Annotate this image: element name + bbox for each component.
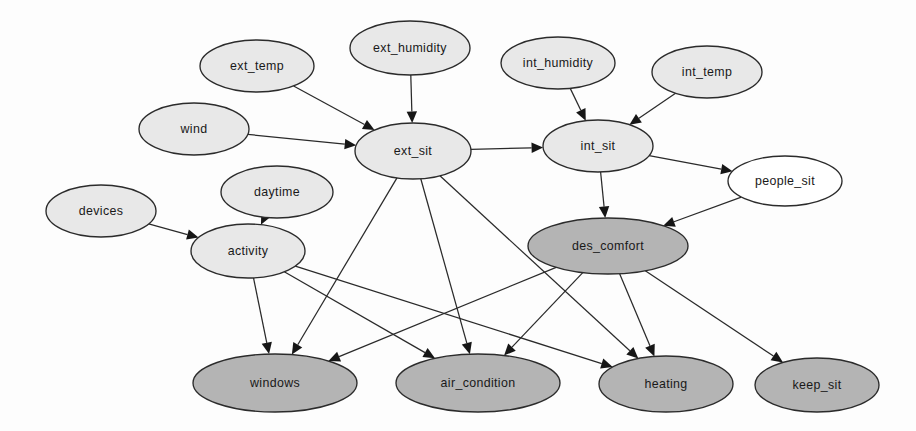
edge-activity-to-air-condition-arrowhead (422, 348, 435, 358)
node-label-ext-temp: ext_temp (230, 59, 284, 73)
edge-ext-sit-to-int-sit-line (471, 148, 532, 150)
edge-wind-to-ext-sit-arrowhead (344, 139, 356, 149)
edge-ext-sit-to-air-condition-arrowhead (462, 342, 472, 354)
edge-int-temp-to-int-sit (629, 93, 675, 124)
node-label-ext-sit: ext_sit (394, 144, 432, 158)
nodes-layer: ext_tempext_humidityint_humidityint_temp… (46, 21, 879, 412)
node-keep-sit[interactable]: keep_sit (755, 358, 879, 412)
edge-activity-to-windows (254, 278, 272, 354)
node-air-condition[interactable]: air_condition (396, 354, 560, 412)
edge-int-humidity-to-int-sit (570, 88, 586, 120)
node-wind[interactable]: wind (139, 103, 249, 155)
edge-ext-temp-to-ext-sit (294, 86, 375, 130)
node-devices[interactable]: devices (46, 185, 156, 237)
edge-ext-humidity-to-ext-sit-line (411, 75, 412, 112)
node-label-air-condition: air_condition (441, 376, 516, 390)
edge-int-sit-to-des-comfort (599, 172, 609, 218)
edge-des-comfort-to-heating (620, 274, 655, 357)
edge-wind-to-ext-sit-line (248, 134, 345, 144)
edge-activity-to-air-condition (284, 272, 435, 358)
node-label-devices: devices (79, 204, 123, 218)
node-label-people-sit: people_sit (755, 174, 815, 188)
edge-int-temp-to-int-sit-line (639, 93, 676, 118)
node-label-keep-sit: keep_sit (793, 378, 842, 392)
node-int-humidity[interactable]: int_humidity (501, 37, 615, 89)
edge-devices-to-activity-arrowhead (186, 230, 198, 240)
edge-des-comfort-to-windows (328, 267, 556, 361)
node-people-sit[interactable]: people_sit (728, 156, 842, 206)
edge-devices-to-activity-line (149, 224, 188, 235)
node-int-temp[interactable]: int_temp (652, 46, 762, 98)
node-label-int-temp: int_temp (682, 65, 732, 79)
edge-des-comfort-to-keep-sit (645, 271, 783, 363)
node-label-activity: activity (228, 244, 269, 258)
edge-des-comfort-to-windows-line (339, 267, 556, 356)
edge-ext-temp-to-ext-sit-line (294, 86, 365, 125)
edge-int-temp-to-int-sit-arrowhead (629, 114, 641, 125)
edge-activity-to-air-condition-line (284, 272, 425, 353)
edge-ext-sit-to-int-sit-arrowhead (531, 143, 543, 153)
edge-activity-to-heating-arrowhead (600, 359, 613, 369)
edge-wind-to-ext-sit (248, 134, 356, 149)
edge-devices-to-activity (149, 224, 199, 240)
edge-des-comfort-to-heating-line (620, 274, 650, 346)
graph-canvas: ext_tempext_humidityint_humidityint_temp… (0, 0, 916, 431)
edge-ext-humidity-to-ext-sit (407, 75, 417, 123)
edge-ext-sit-to-windows-arrowhead (292, 342, 302, 355)
node-ext-temp[interactable]: ext_temp (200, 40, 314, 92)
node-windows[interactable]: windows (193, 354, 357, 412)
edge-des-comfort-to-air-condition (504, 273, 583, 356)
node-heating[interactable]: heating (599, 356, 733, 412)
node-activity[interactable]: activity (191, 224, 305, 278)
edge-ext-sit-to-int-sit (471, 143, 543, 153)
node-label-windows: windows (249, 376, 300, 390)
edge-activity-to-windows-line (254, 278, 267, 343)
edge-ext-humidity-to-ext-sit-arrowhead (407, 111, 417, 123)
edge-ext-temp-to-ext-sit-arrowhead (362, 120, 375, 130)
edge-people-sit-to-des-comfort-arrowhead (663, 217, 676, 227)
node-ext-sit[interactable]: ext_sit (355, 123, 471, 179)
edge-ext-sit-to-air-condition (421, 179, 472, 354)
edge-des-comfort-to-keep-sit-arrowhead (771, 352, 783, 363)
edge-int-sit-to-des-comfort-line (601, 172, 604, 207)
node-label-daytime: daytime (254, 185, 300, 199)
node-int-sit[interactable]: int_sit (543, 120, 653, 172)
edge-ext-sit-to-air-condition-line (421, 179, 467, 343)
edge-people-sit-to-des-comfort-line (674, 197, 741, 222)
node-label-heating: heating (644, 377, 687, 391)
bayesian-network-diagram: ext_tempext_humidityint_humidityint_temp… (0, 0, 916, 431)
node-label-int-sit: int_sit (581, 139, 616, 153)
edge-people-sit-to-des-comfort (663, 197, 741, 227)
node-ext-humidity[interactable]: ext_humidity (350, 21, 470, 75)
edge-activity-to-heating-line (295, 266, 601, 363)
edge-activity-to-heating (295, 266, 612, 368)
edge-activity-to-windows-arrowhead (262, 342, 272, 354)
node-label-int-humidity: int_humidity (523, 56, 594, 70)
edge-int-sit-to-people-sit-line (649, 156, 721, 170)
node-label-des-comfort: des_comfort (572, 239, 644, 253)
edge-int-sit-to-des-comfort-arrowhead (599, 206, 609, 218)
edge-des-comfort-to-keep-sit-line (645, 271, 773, 356)
node-daytime[interactable]: daytime (221, 166, 333, 218)
node-label-ext-humidity: ext_humidity (373, 41, 447, 55)
edge-des-comfort-to-air-condition-line (512, 273, 583, 348)
edge-int-sit-to-people-sit (649, 156, 732, 175)
edge-int-humidity-to-int-sit-line (570, 88, 581, 110)
node-des-comfort[interactable]: des_comfort (528, 218, 688, 274)
node-label-wind: wind (180, 122, 208, 136)
